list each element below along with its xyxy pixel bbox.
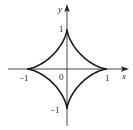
y-axis-label: y bbox=[57, 4, 62, 14]
tick-label-y-pos: 1 bbox=[59, 24, 64, 34]
astroid-figure: y x 1 0 −1 1 −1 bbox=[0, 0, 133, 130]
tick-label-y-neg: −1 bbox=[50, 105, 60, 115]
tick-label-x-pos: 1 bbox=[105, 73, 110, 83]
tick-label-x-neg: −1 bbox=[19, 73, 29, 83]
x-axis-label: x bbox=[121, 71, 126, 81]
tick-label-origin: 0 bbox=[59, 72, 64, 82]
